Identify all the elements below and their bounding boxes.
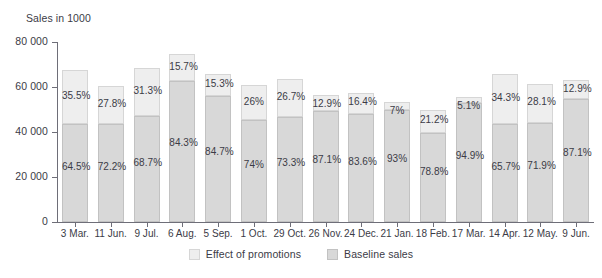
x-axis-tick-label: 11 Jun. bbox=[93, 228, 129, 239]
bar-segment-baseline[interactable] bbox=[241, 120, 267, 222]
x-axis-tick bbox=[326, 223, 327, 227]
bar-segment-baseline[interactable] bbox=[313, 111, 339, 222]
bar-segment-baseline[interactable] bbox=[492, 124, 518, 222]
bar-segment-baseline[interactable] bbox=[527, 123, 553, 222]
bar-segment-baseline[interactable] bbox=[98, 124, 124, 222]
bar-segment-promotions[interactable] bbox=[241, 85, 267, 121]
legend-label-baseline: Baseline sales bbox=[344, 248, 413, 260]
y-axis-tick-label-wrap: 80 000 bbox=[0, 35, 48, 48]
x-axis-tick bbox=[290, 223, 291, 227]
bar-segment-baseline[interactable] bbox=[277, 117, 303, 222]
x-axis-tick-label: 18 Feb. bbox=[415, 228, 451, 239]
bar-segment-promotions[interactable] bbox=[563, 80, 589, 98]
legend-item-promotions[interactable]: Effect of promotions bbox=[189, 248, 301, 260]
bar-column[interactable]: 12.9%87.1% bbox=[563, 80, 589, 222]
bar-column[interactable]: 15.3%84.7% bbox=[205, 74, 231, 223]
stacked-bar-chart: Sales in 1000 020 00040 00060 00080 000 … bbox=[0, 0, 602, 278]
x-axis-tick-label: 6 Aug. bbox=[164, 228, 200, 239]
bar-column[interactable]: 26%74% bbox=[241, 85, 267, 222]
x-axis-tick bbox=[254, 223, 255, 227]
x-axis-tick bbox=[576, 223, 577, 227]
y-axis-tick-label: 80 000 bbox=[15, 35, 48, 47]
bar-column[interactable]: 15.7%84.3% bbox=[169, 54, 195, 222]
bar-segment-promotions[interactable] bbox=[348, 93, 374, 114]
y-axis-tick-label-wrap: 40 000 bbox=[0, 125, 48, 138]
x-axis-tick-label: 9 Jun. bbox=[558, 228, 594, 239]
bar-segment-baseline[interactable] bbox=[169, 81, 195, 222]
bar-column[interactable]: 27.8%72.2% bbox=[98, 86, 124, 222]
bar-segment-promotions[interactable] bbox=[492, 74, 518, 125]
bar-column[interactable]: 26.7%73.3% bbox=[277, 79, 303, 222]
bar-segment-promotions[interactable] bbox=[134, 68, 160, 116]
bar-segment-baseline[interactable] bbox=[563, 99, 589, 222]
bar-segment-baseline[interactable] bbox=[205, 96, 231, 222]
bar-column[interactable]: 35.5%64.5% bbox=[62, 70, 88, 222]
bar-column[interactable]: 34.3%65.7% bbox=[492, 74, 518, 223]
x-axis-tick-label: 29 Oct. bbox=[272, 228, 308, 239]
y-axis-tick-label: 60 000 bbox=[15, 80, 48, 92]
bar-segment-baseline[interactable] bbox=[348, 114, 374, 222]
bar-column[interactable]: 12.9%87.1% bbox=[313, 95, 339, 222]
x-axis-tick-label: 26 Nov. bbox=[308, 228, 344, 239]
bar-segment-baseline[interactable] bbox=[62, 124, 88, 222]
x-axis-tick bbox=[75, 223, 76, 227]
x-axis-tick-label: 17 Mar. bbox=[451, 228, 487, 239]
y-axis-tick-label: 0 bbox=[42, 215, 48, 227]
bar-segment-baseline[interactable] bbox=[384, 110, 410, 222]
chart-legend: Effect of promotions Baseline sales bbox=[0, 248, 602, 260]
legend-swatch-promotions-icon bbox=[189, 249, 200, 260]
y-axis-tick-label-wrap: 20 000 bbox=[0, 170, 48, 183]
bar-column[interactable]: 16.4%83.6% bbox=[348, 93, 374, 222]
bar-segment-baseline[interactable] bbox=[420, 133, 446, 222]
bar-segment-promotions[interactable] bbox=[62, 70, 88, 124]
y-axis-tick bbox=[52, 222, 58, 223]
x-axis-tick bbox=[433, 223, 434, 227]
x-axis-tick-label: 1 Oct. bbox=[236, 228, 272, 239]
x-axis-tick-label: 14 Apr. bbox=[487, 228, 523, 239]
bar-segment-baseline[interactable] bbox=[456, 103, 482, 222]
bar-segment-promotions[interactable] bbox=[277, 79, 303, 117]
y-axis-tick-label-wrap: 0 bbox=[0, 215, 48, 228]
y-axis-tick-label: 20 000 bbox=[15, 170, 48, 182]
bar-column[interactable]: 21.2%78.8% bbox=[420, 110, 446, 223]
legend-swatch-baseline-icon bbox=[327, 249, 338, 260]
bar-column[interactable]: 28.1%71.9% bbox=[527, 84, 553, 222]
x-axis-tick-label: 24 Dec. bbox=[343, 228, 379, 239]
y-axis-tick-label-wrap: 60 000 bbox=[0, 80, 48, 93]
plot-area: 35.5%64.5%27.8%72.2%31.3%68.7%15.7%84.3%… bbox=[57, 42, 592, 222]
x-axis-tick bbox=[147, 223, 148, 227]
x-axis-tick bbox=[182, 223, 183, 227]
bar-column[interactable]: 5.1%94.9% bbox=[456, 97, 482, 222]
x-axis-tick bbox=[218, 223, 219, 227]
x-axis-tick bbox=[111, 223, 112, 227]
x-axis-tick bbox=[361, 223, 362, 227]
legend-label-promotions: Effect of promotions bbox=[206, 248, 301, 260]
bar-segment-promotions[interactable] bbox=[527, 84, 553, 123]
x-axis-tick-label: 9 Jul. bbox=[129, 228, 165, 239]
bar-column[interactable]: 7%93% bbox=[384, 102, 410, 222]
bar-segment-baseline[interactable] bbox=[134, 116, 160, 222]
bar-segment-promotions[interactable] bbox=[98, 86, 124, 124]
x-axis-tick-label: 3 Mar. bbox=[57, 228, 93, 239]
x-axis-tick bbox=[469, 223, 470, 227]
x-axis-tick bbox=[540, 223, 541, 227]
legend-item-baseline[interactable]: Baseline sales bbox=[327, 248, 413, 260]
bar-segment-promotions[interactable] bbox=[205, 74, 231, 97]
x-axis-tick bbox=[505, 223, 506, 227]
bar-segment-promotions[interactable] bbox=[420, 110, 446, 134]
bar-segment-promotions[interactable] bbox=[169, 54, 195, 80]
x-axis-tick-label: 21 Jan. bbox=[379, 228, 415, 239]
bar-segment-promotions[interactable] bbox=[313, 95, 339, 111]
y-axis-title: Sales in 1000 bbox=[26, 12, 91, 24]
bar-segment-promotions[interactable] bbox=[384, 102, 410, 110]
x-axis-tick-label: 12 May. bbox=[522, 228, 558, 239]
x-axis-tick-label: 5 Sep. bbox=[200, 228, 236, 239]
bar-column[interactable]: 31.3%68.7% bbox=[134, 68, 160, 222]
y-axis-tick-label: 40 000 bbox=[15, 125, 48, 137]
x-axis-tick bbox=[397, 223, 398, 227]
